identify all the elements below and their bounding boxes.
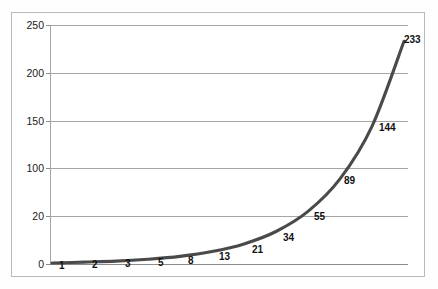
point-label-8: 8 <box>188 256 194 266</box>
fibonacci-growth-chart: 250 200 150 100 20 0 1 2 3 5 8 13 21 34 … <box>0 0 438 289</box>
point-label-233: 233 <box>404 35 421 45</box>
point-label-89: 89 <box>344 176 355 186</box>
point-label-5: 5 <box>158 258 164 268</box>
point-label-13: 13 <box>219 252 230 262</box>
point-label-1: 1 <box>59 261 65 271</box>
point-label-21: 21 <box>252 245 263 255</box>
point-label-2: 2 <box>92 260 98 270</box>
point-label-3: 3 <box>125 259 131 269</box>
point-label-55: 55 <box>314 212 325 222</box>
series-line-fibonacci <box>52 41 404 263</box>
point-label-144: 144 <box>379 123 396 133</box>
series-curve-container <box>0 0 438 289</box>
point-label-34: 34 <box>283 233 294 243</box>
